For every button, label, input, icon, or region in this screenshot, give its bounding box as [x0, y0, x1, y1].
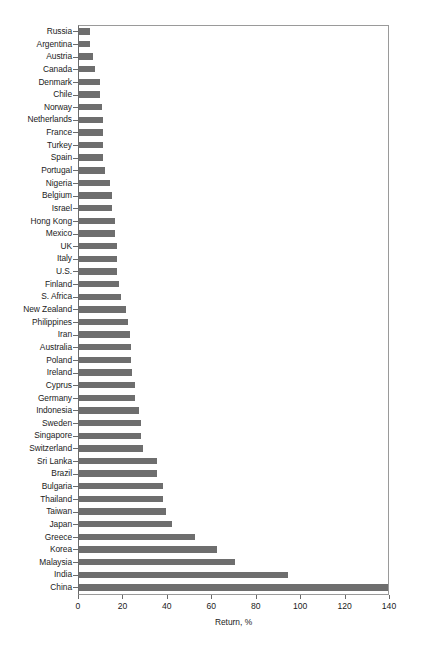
bar — [79, 534, 195, 540]
bar — [79, 395, 135, 401]
category-label: Netherlands — [0, 113, 72, 126]
x-axis-tick-label: 80 — [236, 601, 276, 611]
bar-row: Australia — [0, 341, 427, 354]
bar-row: Austria — [0, 50, 427, 63]
bar-row: Singapore — [0, 429, 427, 442]
bar-row: Italy — [0, 252, 427, 265]
category-label: Australia — [0, 341, 72, 354]
bar — [79, 268, 117, 274]
x-axis-title: Return, % — [78, 617, 389, 627]
y-axis-tick — [73, 95, 78, 96]
bar-row: Belgium — [0, 189, 427, 202]
bar-row: Poland — [0, 354, 427, 367]
y-axis-tick — [73, 436, 78, 437]
category-label: Denmark — [0, 76, 72, 89]
y-axis-tick — [73, 410, 78, 411]
bar-row: Switzerland — [0, 442, 427, 455]
bar-row: Korea — [0, 543, 427, 556]
bar-row: Denmark — [0, 76, 427, 89]
bar-row: Spain — [0, 151, 427, 164]
bar-row: Ireland — [0, 366, 427, 379]
category-label: Turkey — [0, 139, 72, 152]
y-axis-tick — [73, 524, 78, 525]
bar-row: Finland — [0, 278, 427, 291]
y-axis-tick — [73, 183, 78, 184]
y-axis-tick — [73, 499, 78, 500]
bar — [79, 142, 103, 148]
y-axis-tick — [73, 335, 78, 336]
y-axis-tick — [73, 575, 78, 576]
y-axis-tick — [73, 562, 78, 563]
bar-row: Mexico — [0, 227, 427, 240]
y-axis-tick — [73, 587, 78, 588]
y-axis-tick — [73, 448, 78, 449]
bar — [79, 559, 235, 565]
y-axis-tick — [73, 347, 78, 348]
y-axis-tick — [73, 322, 78, 323]
bar — [79, 230, 115, 236]
bar-row: Thailand — [0, 493, 427, 506]
bar — [79, 256, 117, 262]
category-label: Sweden — [0, 417, 72, 430]
category-label: Hong Kong — [0, 215, 72, 228]
bar — [79, 420, 141, 426]
bar — [79, 584, 388, 590]
x-axis-tick — [345, 595, 346, 599]
bar-row: Canada — [0, 63, 427, 76]
category-label: Malaysia — [0, 556, 72, 569]
x-axis-tick — [256, 595, 257, 599]
bar-row: Philippines — [0, 316, 427, 329]
bar-row: Malaysia — [0, 556, 427, 569]
bar — [79, 572, 288, 578]
bar-row: New Zealand — [0, 303, 427, 316]
category-label: Finland — [0, 278, 72, 291]
bar — [79, 382, 135, 388]
y-axis-tick — [73, 82, 78, 83]
bar — [79, 192, 112, 198]
bar-row: Russia — [0, 25, 427, 38]
y-axis-tick — [73, 221, 78, 222]
bar — [79, 117, 103, 123]
bar — [79, 483, 163, 489]
bar — [79, 407, 139, 413]
category-label: Germany — [0, 392, 72, 405]
category-label: New Zealand — [0, 303, 72, 316]
x-axis-tick-label: 20 — [102, 601, 142, 611]
y-axis-tick — [73, 297, 78, 298]
category-label: Argentina — [0, 38, 72, 51]
category-label: Norway — [0, 101, 72, 114]
bar-row: Sweden — [0, 417, 427, 430]
bar — [79, 331, 130, 337]
category-label: Cyprus — [0, 379, 72, 392]
x-axis: Return, % 020406080100120140 — [0, 595, 427, 645]
bar-row: Cyprus — [0, 379, 427, 392]
y-axis-tick — [73, 486, 78, 487]
y-axis-tick — [73, 57, 78, 58]
bar-row: Netherlands — [0, 113, 427, 126]
y-axis-tick — [73, 170, 78, 171]
x-axis-tick-label: 120 — [325, 601, 365, 611]
category-label: Japan — [0, 518, 72, 531]
bar — [79, 281, 119, 287]
y-axis-tick — [73, 145, 78, 146]
category-label: Brazil — [0, 467, 72, 480]
bar — [79, 104, 102, 110]
bar — [79, 53, 93, 59]
bar — [79, 508, 166, 514]
y-axis-tick — [73, 234, 78, 235]
y-axis-tick — [73, 461, 78, 462]
bar — [79, 344, 131, 350]
y-axis-tick — [73, 360, 78, 361]
category-label: France — [0, 126, 72, 139]
bar-row: Indonesia — [0, 404, 427, 417]
y-axis-tick — [73, 537, 78, 538]
bar — [79, 496, 163, 502]
y-axis-tick — [73, 398, 78, 399]
y-axis-tick — [73, 44, 78, 45]
bar-row: Iran — [0, 328, 427, 341]
x-axis-tick — [78, 595, 79, 599]
y-axis-tick — [73, 132, 78, 133]
y-axis-tick — [73, 309, 78, 310]
category-label: Taiwan — [0, 505, 72, 518]
bar-row: India — [0, 568, 427, 581]
